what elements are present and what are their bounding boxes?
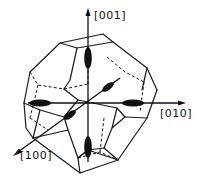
ellipsoid-bottom xyxy=(84,136,92,158)
axis-label-010: [010] xyxy=(160,108,192,119)
ellipsoid-right xyxy=(122,99,144,106)
ellipsoid-left xyxy=(29,99,51,106)
ellipsoid-top xyxy=(84,47,92,69)
arrowhead-010-icon xyxy=(178,101,186,106)
diagram-canvas: [001] [010] [100] xyxy=(0,0,198,183)
axis-label-100: [100] xyxy=(20,150,52,161)
axis-label-001: [001] xyxy=(94,10,126,21)
arrowhead-001-icon xyxy=(86,8,91,16)
